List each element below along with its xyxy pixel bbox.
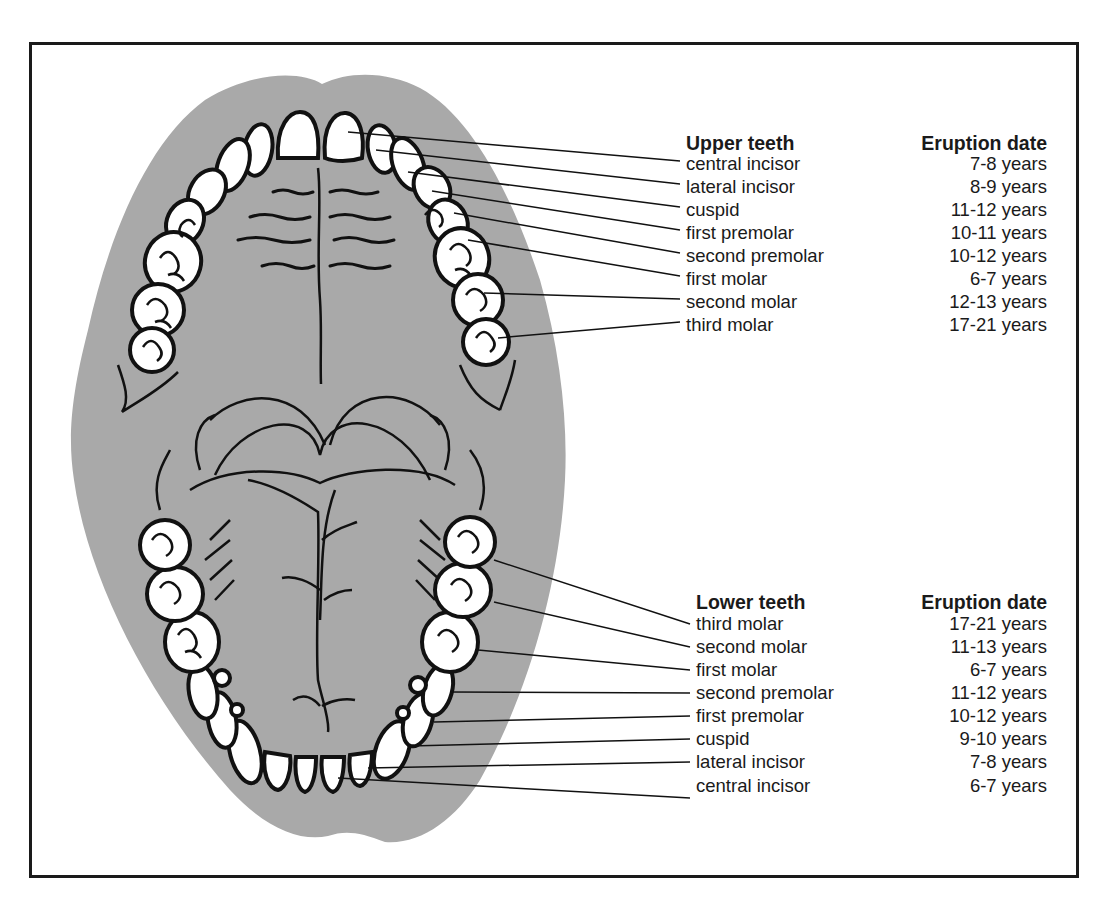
upper-central-incisor-right	[325, 113, 363, 161]
upper-row-name: third molar	[686, 314, 773, 336]
upper-row-date: 12-13 years	[949, 291, 1047, 313]
upper-row-name: second molar	[686, 291, 797, 313]
lower-second-molar-right	[435, 563, 491, 617]
upper-row-date: 8-9 years	[970, 176, 1047, 198]
upper-row-date: 7-8 years	[970, 153, 1047, 175]
upper-second-molar-right	[453, 274, 503, 326]
lower-row-name: lateral incisor	[696, 751, 805, 773]
lower-row-name: second molar	[696, 636, 807, 658]
lower-row-name: central incisor	[696, 775, 810, 797]
lower-row-date: 6-7 years	[970, 659, 1047, 681]
upper-row-date: 6-7 years	[970, 268, 1047, 290]
upper-row-date: 10-11 years	[951, 222, 1047, 244]
lower-second-molar-left	[147, 567, 203, 621]
lower-central-incisor-right	[322, 757, 344, 792]
lower-row-name: third molar	[696, 613, 783, 635]
upper-third-molar-right	[463, 319, 509, 365]
upper-row-name: central incisor	[686, 153, 800, 175]
lower-row-name: first premolar	[696, 705, 804, 727]
upper-third-molar-left	[130, 328, 174, 372]
lower-first-molar-right	[422, 612, 478, 672]
lower-row-date: 10-12 years	[949, 705, 1047, 727]
lower-header-date: Eruption date	[921, 591, 1047, 613]
upper-row-name: cuspid	[686, 199, 739, 221]
lower-row-date: 11-12 years	[951, 682, 1047, 704]
lower-row-date: 7-8 years	[970, 751, 1047, 773]
upper-row-name: second premolar	[686, 245, 824, 267]
lower-header-name: Lower teeth	[696, 591, 805, 613]
lower-row-date: 6-7 years	[970, 775, 1047, 797]
lower-third-molar-left	[140, 520, 190, 570]
lower-row-name: cuspid	[696, 728, 749, 750]
upper-row-name: first molar	[686, 268, 767, 290]
upper-row-date: 11-12 years	[951, 199, 1047, 221]
upper-row-name: lateral incisor	[686, 176, 795, 198]
lower-row-name: first molar	[696, 659, 777, 681]
lower-row-date: 17-21 years	[949, 613, 1047, 635]
lower-lateral-incisor-right	[349, 752, 372, 786]
upper-header-name: Upper teeth	[686, 132, 794, 154]
upper-row-date: 17-21 years	[949, 314, 1047, 336]
lower-third-molar-right	[445, 517, 495, 567]
lower-lateral-incisor-left	[264, 752, 290, 790]
upper-header-date: Eruption date	[921, 132, 1047, 154]
upper-row-date: 10-12 years	[949, 245, 1047, 267]
lower-row-name: second premolar	[696, 682, 834, 704]
lower-row-date: 11-13 years	[951, 636, 1047, 658]
lower-row-date: 9-10 years	[960, 728, 1047, 750]
upper-row-name: first premolar	[686, 222, 794, 244]
